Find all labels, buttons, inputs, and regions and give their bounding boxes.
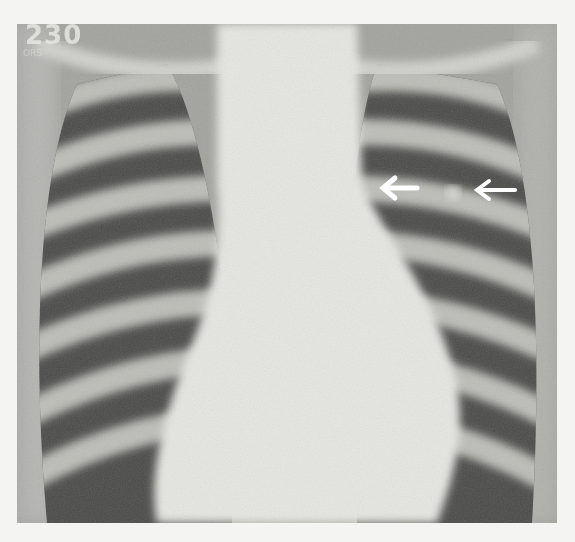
chest-xray-graphic <box>17 24 557 523</box>
film-label: 230 <box>25 24 82 50</box>
xray-image: 230 ORS <box>17 24 557 523</box>
film-sublabel: ORS <box>23 48 42 58</box>
